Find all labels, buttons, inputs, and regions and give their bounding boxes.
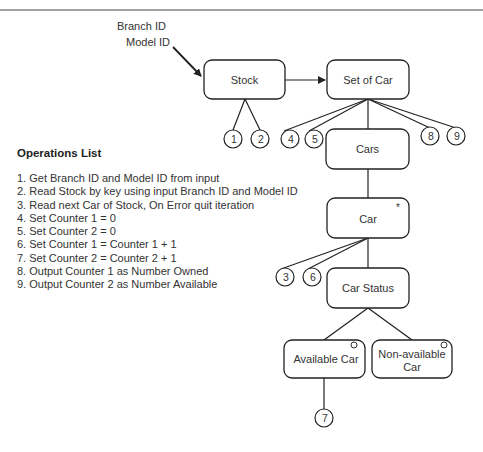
operations-list-title: Operations List (17, 147, 298, 159)
operation-item: 3. Read next Car of Stock, On Error quit… (17, 199, 298, 212)
operation-item: 6. Set Counter 1 = Counter 1 + 1 (17, 238, 298, 251)
operation-item: 7. Set Counter 2 = Counter 2 + 1 (17, 252, 298, 265)
operation-number: 1 (231, 133, 237, 145)
node-car-label: Car (359, 213, 377, 225)
operation-number: 9 (454, 130, 460, 142)
iteration-marker-icon: * (396, 202, 400, 213)
node-available-car-label: Available Car (293, 353, 359, 365)
operation-item: 8. Output Counter 1 as Number Owned (17, 265, 298, 278)
operation-item: 4. Set Counter 1 = 0 (17, 212, 298, 225)
input-label-model-id: Model ID (126, 36, 170, 48)
operation-number: 7 (322, 412, 328, 424)
operation-number: 5 (312, 133, 318, 145)
operation-number: 2 (258, 133, 264, 145)
operations-list: Operations List 1. Get Branch ID and Mod… (17, 147, 298, 292)
operation-number: 4 (288, 133, 294, 145)
node-non-available-label-1: Non-available (378, 348, 445, 360)
operation-item: 1. Get Branch ID and Model ID from input (17, 172, 298, 185)
operation-item: 9. Output Counter 2 as Number Available (17, 278, 298, 291)
node-cars-label: Cars (356, 143, 380, 155)
node-non-available-label-2: Car (403, 361, 421, 373)
operation-number: 8 (428, 130, 434, 142)
input-arrow (173, 47, 201, 76)
operation-item: 5. Set Counter 2 = 0 (17, 225, 298, 238)
node-car-status-label: Car Status (342, 282, 394, 294)
node-set-of-car-label: Set of Car (343, 74, 393, 86)
operation-item: 2. Read Stock by key using input Branch … (17, 185, 298, 198)
input-label-branch-id: Branch ID (117, 20, 166, 32)
node-stock-label: Stock (231, 74, 259, 86)
operation-number: 6 (310, 271, 316, 283)
